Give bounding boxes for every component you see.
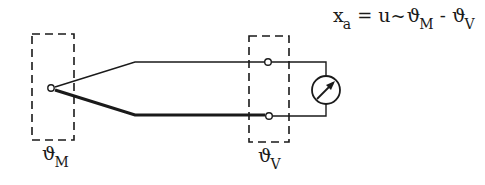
terminal-bottom-icon [266,113,273,120]
terminal-top-icon [265,59,272,66]
formula-u: u [378,4,390,26]
formula-theta-v-sub: V [465,16,475,32]
meter-icon [312,76,340,104]
thin-wire [55,62,265,87]
theta-v-sub: V [271,156,281,172]
reference-junction-box [249,36,289,142]
formula-equals: = [357,5,373,26]
lead-bottom [273,104,327,116]
measuring-junction-label: ϑM [42,142,70,164]
formula-proportional: ~ [391,5,407,26]
formula-theta-v: ϑ [452,4,466,26]
thick-wire [55,90,265,115]
formula-minus: - [440,5,447,26]
lead-top [272,62,327,76]
theta-m-sub: M [55,154,69,170]
theta-m-symbol: ϑ [42,142,56,164]
thermocouple-diagram [0,0,485,185]
theta-v-symbol: ϑ [258,144,272,166]
reference-junction-label: ϑV [258,144,282,166]
formula-theta-m-sub: M [419,16,433,32]
measuring-junction-icon [48,85,54,91]
formula: xa = u~ϑM - ϑV [333,4,476,26]
formula-x-sub: a [343,16,351,32]
